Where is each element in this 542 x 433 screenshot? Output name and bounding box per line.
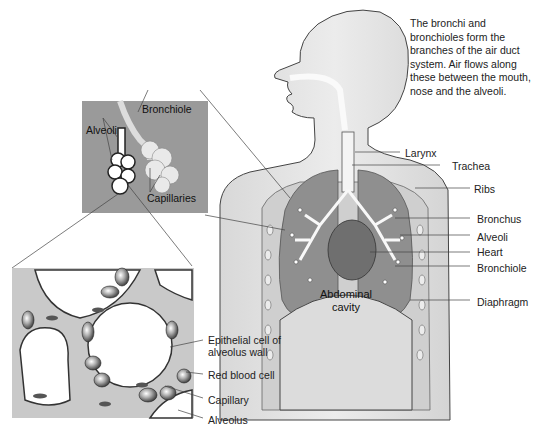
- heart: [328, 220, 376, 280]
- label-capillary: Capillary: [208, 394, 249, 406]
- label-diaphragm: Diaphragm: [477, 296, 528, 308]
- label-red-blood-cell: Red blood cell: [208, 369, 275, 381]
- description-text: The bronchi and bronchioles form the bra…: [410, 17, 540, 98]
- abdominal-line2: cavity: [308, 301, 384, 314]
- label-epithelial-1: Epithelial cell of: [208, 334, 281, 346]
- abdominal-line1: Abdominal: [308, 288, 384, 301]
- label-alveolus: Alveolus: [208, 414, 248, 426]
- label-abdominal-cavity: Abdominal cavity: [308, 288, 384, 314]
- label-bronchus: Bronchus: [477, 213, 521, 225]
- inset-label-alveoli: Alveoli: [86, 124, 117, 136]
- inset-label-bronchiole: Bronchiole: [142, 103, 192, 115]
- trachea: [342, 132, 354, 192]
- label-alveoli: Alveoli: [477, 231, 508, 243]
- label-epithelial-2: alveolus wall: [208, 346, 268, 358]
- label-trachea: Trachea: [452, 160, 490, 172]
- label-ribs: Ribs: [474, 183, 495, 195]
- inset-label-capillaries: Capillaries: [147, 192, 196, 204]
- label-larynx: Larynx: [405, 147, 437, 159]
- label-heart: Heart: [477, 246, 503, 258]
- label-bronchiole: Bronchiole: [477, 262, 527, 274]
